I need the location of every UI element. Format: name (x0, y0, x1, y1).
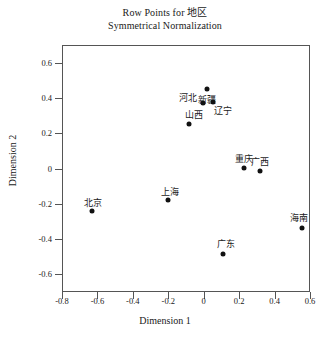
plot-area (62, 45, 310, 292)
x-tick-label: -0.8 (55, 296, 68, 306)
data-point-label: 辽宁 (214, 103, 232, 116)
y-tick-label: -0.6 (24, 269, 52, 279)
y-tick-label: 0 (24, 164, 52, 174)
y-tick-label: 0.6 (24, 58, 52, 68)
x-tick-label: -0.6 (91, 296, 104, 306)
data-point (186, 121, 191, 126)
x-tick-label: -0.4 (126, 296, 139, 306)
x-tick-label: 0.6 (305, 296, 316, 306)
y-tick-label: 0.2 (24, 128, 52, 138)
y-tick-label: -0.4 (24, 234, 52, 244)
data-point (166, 198, 171, 203)
x-tick-label: -0.2 (162, 296, 175, 306)
y-axis-title: Dimension 2 (7, 111, 18, 211)
x-tick-label: 0.4 (269, 296, 280, 306)
y-tick-mark (55, 169, 62, 170)
x-tick-label: 0 (202, 296, 206, 306)
data-point-label: 河北 (179, 90, 197, 103)
y-tick-mark (55, 274, 62, 275)
x-tick-label: 0.2 (234, 296, 245, 306)
y-tick-label: 0.4 (24, 93, 52, 103)
y-tick-mark (55, 98, 62, 99)
data-point-label: 广西 (251, 155, 269, 168)
chart-subtitle: Symmetrical Normalization (0, 19, 330, 32)
data-point (205, 87, 210, 92)
data-point (221, 252, 226, 257)
x-axis-title: Dimension 1 (0, 315, 330, 326)
chart-title: Row Points for 地区 (0, 6, 330, 19)
y-tick-mark (55, 133, 62, 134)
y-tick-mark (55, 204, 62, 205)
data-point-label: 山西 (185, 108, 203, 121)
data-point-label: 海南 (290, 211, 308, 224)
data-point-label: 上海 (161, 185, 179, 198)
scatter-plot: Row Points for 地区 Symmetrical Normalizat… (0, 0, 330, 337)
chart-title-block: Row Points for 地区 Symmetrical Normalizat… (0, 6, 330, 32)
data-point (90, 208, 95, 213)
y-tick-label: -0.2 (24, 199, 52, 209)
data-point (257, 169, 262, 174)
data-point-label: 广东 (217, 237, 235, 250)
data-point-label: 北京 (84, 195, 102, 208)
data-point (241, 165, 246, 170)
data-point (300, 225, 305, 230)
y-tick-mark (55, 63, 62, 64)
data-point (200, 101, 205, 106)
data-point-label: 重庆 (235, 152, 253, 165)
y-tick-mark (55, 239, 62, 240)
